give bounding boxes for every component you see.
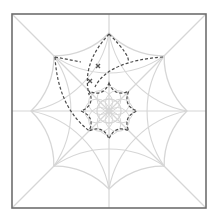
cross-markers [88, 64, 100, 83]
radial-guide-line [12, 111, 109, 208]
dashed-petal-left [55, 57, 89, 131]
geometric-star-diagram [0, 0, 212, 212]
inner-rosette [85, 87, 133, 135]
x-marker-icon [88, 79, 92, 83]
radial-guide-line [12, 14, 109, 111]
radial-guide-line [109, 14, 206, 111]
dashed-petal-right [95, 57, 163, 87]
radial-guide-line [109, 111, 206, 208]
diagram-canvas [0, 0, 212, 212]
